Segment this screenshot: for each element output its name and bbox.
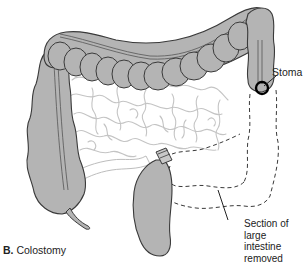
small-intestine (70, 76, 228, 157)
removed-section-label: Section of large intestine removed (244, 218, 304, 264)
caption-letter: B. (3, 244, 14, 256)
removed-section-label-line3: removed (244, 253, 304, 264)
figure-caption: B. Colostomy (3, 245, 66, 256)
descending-colon (246, 8, 275, 92)
removed-leader-line (218, 190, 228, 220)
caption-text: Colostomy (16, 244, 66, 256)
removed-section-label-line2: large intestine (244, 230, 304, 253)
stoma-label: Stoma (272, 67, 302, 78)
removed-section-label-line1: Section of (244, 218, 304, 230)
appendix (66, 208, 90, 229)
